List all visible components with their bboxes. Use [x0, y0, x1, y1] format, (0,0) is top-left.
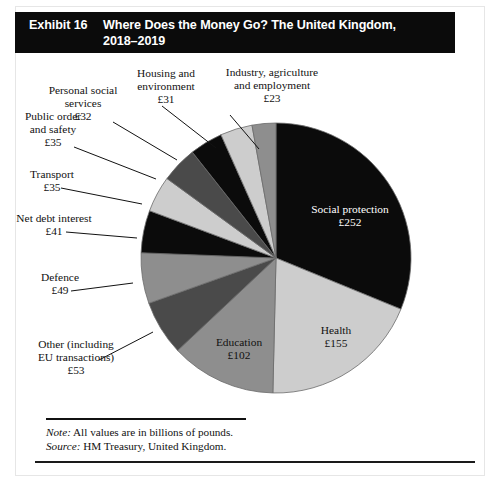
source-line: Source: HM Treasury, United Kingdom.	[46, 439, 346, 453]
footnote-rule	[46, 418, 246, 420]
label-net-debt-interest: Net debt interest £41	[0, 212, 112, 238]
label-public-order-safety: Public order and safety £35	[7, 110, 99, 150]
note-line: Note: All values are in billions of poun…	[46, 425, 346, 439]
leader-line-personal-social	[113, 122, 177, 160]
label-education: Education £102	[200, 336, 278, 362]
footnote: Note: All values are in billions of poun…	[46, 418, 346, 453]
exhibit-number: Exhibit 16	[29, 17, 103, 33]
leader-line-housing	[162, 106, 216, 148]
source-text: HM Treasury, United Kingdom.	[80, 440, 226, 452]
note-label: Note:	[46, 426, 71, 438]
exhibit-header: Exhibit 16Where Does the Money Go? The U…	[15, 12, 455, 53]
label-transport: Transport £35	[6, 168, 98, 194]
label-defence: Defence £49	[14, 271, 106, 297]
bottom-rule	[35, 461, 475, 463]
pie-chart: Housing and environment £31 Industry, ag…	[0, 48, 470, 418]
label-other-eu-transactions: Other (including EU transactions) £53	[18, 338, 134, 378]
label-health: Health £155	[305, 324, 367, 350]
label-social-protection: Social protection £252	[290, 203, 410, 229]
page-title: Where Does the Money Go? The United King…	[103, 17, 433, 49]
note-text: All values are in billions of pounds.	[71, 426, 233, 438]
source-label: Source:	[46, 440, 80, 452]
label-industry-agriculture: Industry, agriculture and employment £23	[208, 66, 336, 106]
